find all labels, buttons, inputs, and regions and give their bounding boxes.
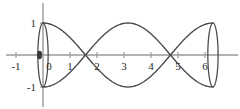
x-tick-label--1: -1 — [11, 60, 20, 72]
chart-figure: -1 0 1 2 3 4 5 6 1 -1 — [0, 0, 240, 109]
x-tick-label-1: 1 — [67, 60, 73, 72]
x-tick-label-2: 2 — [94, 60, 100, 72]
x-tick-label-3: 3 — [121, 60, 127, 72]
chart-canvas: -1 0 1 2 3 4 5 6 1 -1 — [0, 0, 240, 109]
origin-marker-dot — [37, 51, 42, 59]
x-tick-label-5: 5 — [175, 60, 181, 72]
y-tick-label--1: -1 — [27, 81, 36, 93]
x-tick-label-4: 4 — [148, 60, 154, 72]
y-tick-label-1: 1 — [31, 17, 37, 29]
x-tick-label-0: 0 — [46, 60, 52, 72]
x-tick-label-6: 6 — [202, 60, 208, 72]
